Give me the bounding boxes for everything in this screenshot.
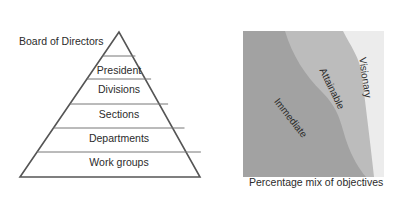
pyramid-level-president: President [97, 64, 141, 76]
organization-pyramid: Board of Directors President Divisions S… [19, 32, 201, 177]
chart-caption: Percentage mix of objectives [249, 176, 383, 188]
pyramid-level-divisions: Divisions [98, 83, 140, 95]
pyramid-level-sections: Sections [99, 108, 139, 120]
board-of-directors-label: Board of Directors [19, 35, 104, 47]
objectives-mix-chart: Immediate Attainable Visionary Percentag… [243, 31, 384, 188]
diagram-canvas: Board of Directors President Divisions S… [0, 0, 399, 197]
pyramid-level-work-groups: Work groups [89, 156, 148, 168]
pyramid-level-departments: Departments [89, 132, 149, 144]
